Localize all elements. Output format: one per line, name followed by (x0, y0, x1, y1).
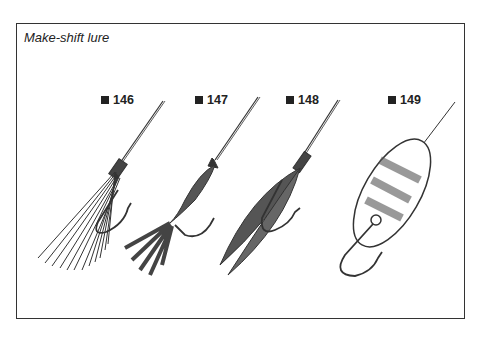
cloth-lure-icon (125, 97, 260, 275)
lure-illustrations (0, 0, 487, 341)
spoon-lure-icon (338, 102, 455, 276)
